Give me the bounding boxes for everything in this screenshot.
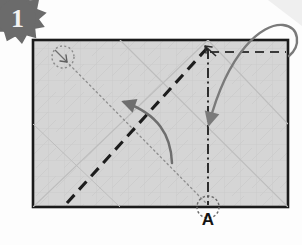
step-number-badge	[0, 0, 47, 44]
background-wash	[268, 0, 302, 26]
paper-sheet	[33, 40, 288, 207]
origami-diagram-stage: 1 A	[0, 0, 302, 245]
point-a-label: A	[198, 210, 218, 230]
diagram-canvas	[0, 0, 302, 245]
